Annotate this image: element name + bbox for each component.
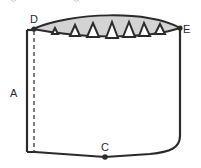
cropped-text-fragment — [11, 0, 79, 2]
label-d: D — [30, 13, 38, 25]
right-edge-line — [27, 28, 180, 157]
label-a: A — [10, 87, 18, 99]
point-e — [177, 25, 182, 30]
label-c: C — [101, 141, 109, 153]
label-e: E — [183, 23, 190, 35]
pattern-diagram: D E A C — [0, 0, 201, 168]
point-d — [31, 26, 36, 31]
point-c — [102, 154, 108, 160]
